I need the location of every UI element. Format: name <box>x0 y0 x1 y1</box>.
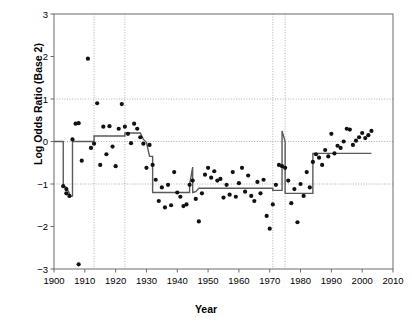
data-point <box>92 142 96 146</box>
data-point <box>163 205 167 209</box>
data-point <box>194 197 198 201</box>
data-point <box>178 195 182 199</box>
data-point <box>200 191 204 195</box>
data-point <box>289 201 293 205</box>
data-point <box>64 187 68 191</box>
x-tick-label: 2000 <box>352 275 373 286</box>
data-point <box>135 127 139 131</box>
data-point <box>240 166 244 170</box>
data-point <box>366 133 370 137</box>
data-point <box>67 194 71 198</box>
data-point <box>360 131 364 135</box>
y-tick-label: 3 <box>43 9 48 20</box>
data-point <box>369 129 373 133</box>
y-tick-label: −1 <box>37 179 48 190</box>
data-point <box>172 170 176 174</box>
data-point <box>221 196 225 200</box>
data-point <box>86 57 90 61</box>
data-point <box>283 166 287 170</box>
x-tick-label: 1960 <box>228 275 249 286</box>
data-point <box>234 195 238 199</box>
data-point <box>243 190 247 194</box>
data-point <box>70 137 74 141</box>
data-point <box>351 143 355 147</box>
data-point <box>357 135 361 139</box>
data-point <box>212 169 216 173</box>
data-point <box>154 178 158 182</box>
y-tick-label: 0 <box>43 136 48 147</box>
data-point <box>132 122 136 126</box>
data-point <box>320 163 324 167</box>
data-point <box>209 176 213 180</box>
data-point <box>157 199 161 203</box>
data-point <box>332 151 336 155</box>
data-point <box>169 203 173 207</box>
data-point <box>255 180 259 184</box>
y-tick-label: −2 <box>37 221 48 232</box>
data-point <box>342 139 346 143</box>
data-point <box>166 183 170 187</box>
x-tick-label: 1940 <box>167 275 188 286</box>
data-point <box>144 166 148 170</box>
data-point <box>197 219 201 223</box>
data-point <box>271 202 275 206</box>
data-point <box>268 227 272 231</box>
data-point <box>184 202 188 206</box>
data-point <box>231 170 235 174</box>
x-tick-label: 2010 <box>382 275 403 286</box>
data-point <box>363 136 367 140</box>
data-point <box>286 179 290 183</box>
data-point <box>314 152 318 156</box>
data-point <box>138 135 142 139</box>
data-point <box>317 156 321 160</box>
chart-figure: Log Odds Ratio (Base 2) Year 19001910192… <box>0 0 412 326</box>
data-point <box>80 159 84 163</box>
x-tick-label: 1980 <box>290 275 311 286</box>
x-tick-label: 1930 <box>136 275 157 286</box>
data-point <box>246 173 250 177</box>
data-point <box>339 146 343 150</box>
data-point <box>348 128 352 132</box>
data-point <box>129 141 133 145</box>
y-tick-label: −3 <box>37 264 48 275</box>
data-point <box>323 148 327 152</box>
data-point <box>191 179 195 183</box>
data-point <box>292 187 296 191</box>
data-points <box>61 57 373 267</box>
data-point <box>95 101 99 105</box>
y-tick-label: 1 <box>43 94 48 105</box>
x-tick-label: 1970 <box>259 275 280 286</box>
data-point <box>224 183 228 187</box>
data-point <box>126 132 130 136</box>
data-point <box>98 163 102 167</box>
data-point <box>114 164 118 168</box>
axis-ticks <box>51 14 394 273</box>
data-point <box>89 146 93 150</box>
data-point <box>203 173 207 177</box>
data-point <box>77 121 81 125</box>
data-point <box>265 214 269 218</box>
data-point <box>308 185 312 189</box>
data-point <box>295 220 299 224</box>
data-point <box>61 184 65 188</box>
data-point <box>107 124 111 128</box>
data-point <box>258 191 262 195</box>
x-tick-label: 1910 <box>74 275 95 286</box>
data-point <box>101 125 105 129</box>
data-point <box>147 143 151 147</box>
data-point <box>77 262 81 266</box>
data-point <box>354 139 358 143</box>
data-point <box>261 178 265 182</box>
data-point <box>175 190 179 194</box>
data-point <box>274 183 278 187</box>
data-point <box>329 132 333 136</box>
data-point <box>117 127 121 131</box>
data-point <box>298 182 302 186</box>
data-point <box>237 181 241 185</box>
data-point <box>104 152 108 156</box>
data-point <box>305 170 309 174</box>
data-point <box>249 194 253 198</box>
data-point <box>252 199 256 203</box>
data-point <box>206 166 210 170</box>
y-tick-label: 2 <box>43 51 48 62</box>
